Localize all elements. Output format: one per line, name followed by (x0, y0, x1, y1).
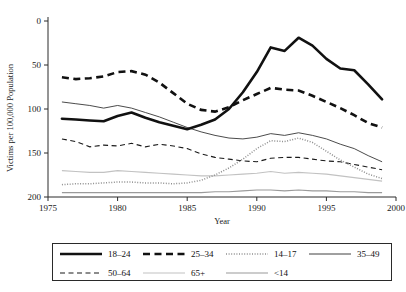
legend-swatch-fine-solid-light (142, 268, 186, 278)
legend-swatch-thin-solid-light (225, 268, 269, 278)
y-axis-title-wrap: Victims per 100,000 Population (0, 0, 26, 230)
legend-swatch-dashed (59, 268, 103, 278)
legend: 18–2425–3414–1735–49 50–6465+<14 (52, 243, 392, 281)
legend-row: 18–2425–3414–1735–49 (53, 244, 391, 263)
y-tick-label: 50 (32, 60, 42, 70)
legend-item[interactable]: 25–34 (142, 244, 225, 263)
y-tick-label: 150 (28, 148, 42, 158)
legend-item-label: 50–64 (108, 268, 131, 278)
chart-figure: 200150100500197519801985199019952000Year… (0, 0, 406, 292)
legend-swatch-thick-solid (59, 249, 103, 259)
x-tick-label: 1990 (248, 203, 267, 213)
x-axis-title: Year (214, 216, 230, 226)
legend-item-label: 25–34 (191, 249, 214, 259)
x-tick-label: 1980 (109, 203, 128, 213)
plot-area: 200150100500197519801985199019952000Year (0, 0, 406, 230)
line-chart-svg: 200150100500197519801985199019952000Year (0, 0, 406, 230)
x-tick-label: 1995 (317, 203, 336, 213)
y-tick-label: 0 (37, 16, 42, 26)
y-tick-label: 200 (28, 192, 42, 202)
x-tick-label: 2000 (387, 203, 406, 213)
legend-swatch-thick-dashed (142, 249, 186, 259)
series-line-1417 (62, 138, 382, 185)
legend-item[interactable]: 35–49 (308, 244, 391, 263)
y-axis-title: Victims per 100,000 Population (5, 63, 15, 172)
legend-swatch-dotted (225, 249, 269, 259)
legend-item-label: 18–24 (108, 249, 131, 259)
series-line-3549 (62, 102, 382, 162)
legend-item[interactable]: <14 (225, 263, 308, 282)
series-line-5064 (62, 139, 382, 170)
legend-item[interactable]: 65+ (142, 263, 225, 282)
x-tick-label: 1975 (39, 203, 58, 213)
series-layer (62, 38, 382, 193)
y-tick-label: 100 (28, 104, 42, 114)
legend-item-label: 65+ (191, 268, 205, 278)
series-line-14 (62, 190, 382, 193)
legend-row: 50–6465+<14 (53, 263, 391, 282)
legend-item-label: 35–49 (357, 249, 380, 259)
legend-item-label: 14–17 (274, 249, 297, 259)
series-line-1824 (62, 38, 382, 130)
x-tick-label: 1985 (178, 203, 197, 213)
legend-swatch-thin-solid (308, 249, 352, 259)
legend-item[interactable]: 18–24 (59, 244, 142, 263)
legend-item[interactable]: 50–64 (59, 263, 142, 282)
legend-item-label: <14 (274, 268, 288, 278)
legend-item[interactable]: 14–17 (225, 244, 308, 263)
